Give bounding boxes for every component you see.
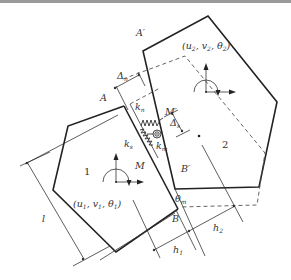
label-block-2-number: 2 — [222, 139, 228, 150]
label-h2: h2 — [213, 222, 223, 234]
h1-tick-left — [153, 249, 155, 251]
label-block-2-dof: (u2, v2, θ2) — [182, 40, 231, 52]
rotational-spring-km — [147, 130, 161, 138]
block-2-axes-icon — [194, 63, 236, 96]
label-h1: h1 — [173, 244, 183, 256]
label-b: B — [171, 213, 179, 224]
delta-n-tick-b — [138, 74, 140, 76]
label-b-prime: B′ — [180, 163, 191, 174]
block-2-reference-line — [202, 145, 243, 222]
label-block-1-number: 1 — [84, 166, 90, 177]
label-l: l — [42, 213, 45, 224]
dimension-l-tick-bottom — [82, 258, 84, 260]
dimension-l-ext-top — [20, 152, 50, 166]
block-1-offset-line-bottom — [100, 213, 175, 260]
block-1-outline — [53, 106, 178, 252]
label-delta-n: Δn — [116, 70, 128, 82]
dimension-l-tick-top — [26, 162, 28, 164]
label-delta-s: Δs — [169, 117, 180, 129]
block-interface-diagram: A′ A Δn kn M′ Δs ks km M 2 1 (u2, v2, θ2… — [0, 0, 291, 280]
block-2-centroid-dot — [198, 135, 201, 138]
h1-h2-tick-mid — [188, 230, 190, 232]
label-block-1-dof: (u1, v1, θ1) — [73, 198, 122, 210]
label-m-prime: M′ — [164, 106, 178, 117]
label-theta-m: θm — [175, 193, 187, 205]
label-m: M — [134, 160, 145, 171]
shear-spring-ks — [140, 129, 153, 145]
label-a: A — [99, 92, 107, 103]
h2-tick-right — [233, 205, 235, 207]
block-1-offset-line — [25, 115, 118, 164]
label-k-n: kn — [135, 101, 145, 113]
label-a-prime: A′ — [135, 27, 146, 38]
delta-n-tick-a — [114, 87, 116, 89]
label-k-m: km — [156, 140, 168, 152]
label-k-s: ks — [124, 138, 133, 150]
delta-s-tick-b — [181, 130, 183, 132]
